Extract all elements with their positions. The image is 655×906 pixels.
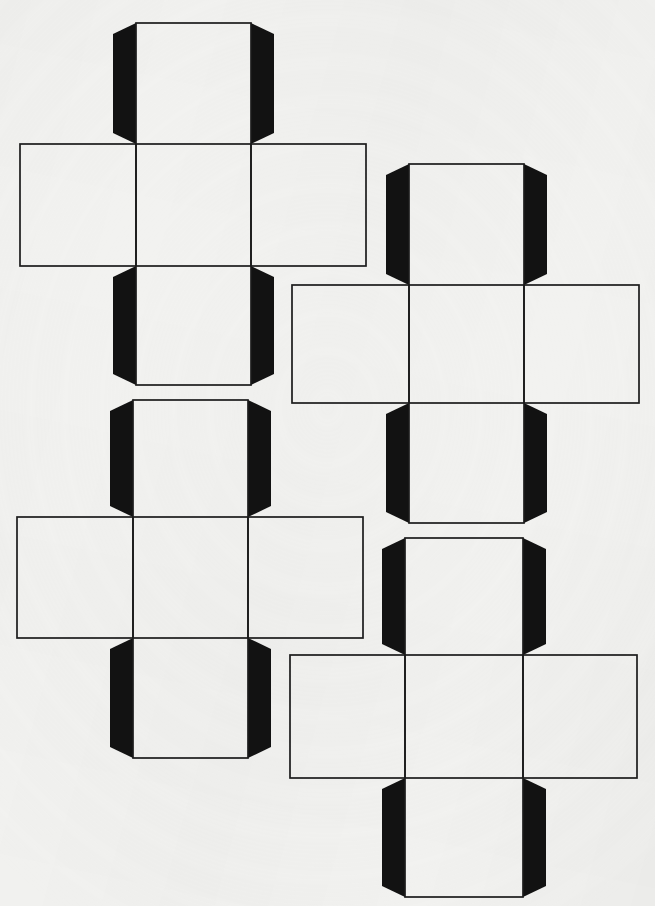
right-panel-fill: [248, 517, 363, 638]
tab-top-left-glue-tab: [110, 400, 133, 517]
tab-top-left-glue-tab: [386, 164, 409, 285]
left-panel-fill: [292, 285, 409, 403]
center-panel-fill: [405, 655, 523, 778]
tab-bottom-left-glue-tab: [110, 638, 133, 758]
tab-top-right-glue-tab: [524, 164, 547, 285]
right-panel-fill: [524, 285, 639, 403]
center-panel-fill: [136, 144, 251, 266]
tab-bottom-left-glue-tab: [386, 403, 409, 523]
tab-bottom-right-glue-tab: [524, 403, 547, 523]
left-panel-fill: [17, 517, 133, 638]
right-panel-fill: [251, 144, 366, 266]
center-panel-fill: [133, 517, 248, 638]
top-panel-fill: [133, 400, 248, 517]
top-panel-fill: [409, 164, 524, 285]
nets-canvas: [0, 0, 655, 906]
tab-top-right-glue-tab: [251, 23, 274, 144]
scanned-page: [0, 0, 655, 906]
tab-bottom-left-glue-tab: [113, 266, 136, 385]
left-panel-fill: [20, 144, 136, 266]
tab-top-right-glue-tab: [523, 538, 546, 655]
tab-bottom-right-glue-tab: [523, 778, 546, 897]
tab-top-right-glue-tab: [248, 400, 271, 517]
cube-nets-layer: [0, 0, 655, 906]
tab-bottom-right-glue-tab: [248, 638, 271, 758]
tab-bottom-right-glue-tab: [251, 266, 274, 385]
right-panel-fill: [523, 655, 637, 778]
tab-top-left-glue-tab: [113, 23, 136, 144]
top-panel-fill: [405, 538, 523, 655]
top-panel-fill: [136, 23, 251, 144]
tab-top-left-glue-tab: [382, 538, 405, 655]
bottom-panel-fill: [133, 638, 248, 758]
bottom-panel-fill: [136, 266, 251, 385]
bottom-panel-fill: [409, 403, 524, 523]
bottom-panel-fill: [405, 778, 523, 897]
center-panel-fill: [409, 285, 524, 403]
tab-bottom-left-glue-tab: [382, 778, 405, 897]
left-panel-fill: [290, 655, 405, 778]
